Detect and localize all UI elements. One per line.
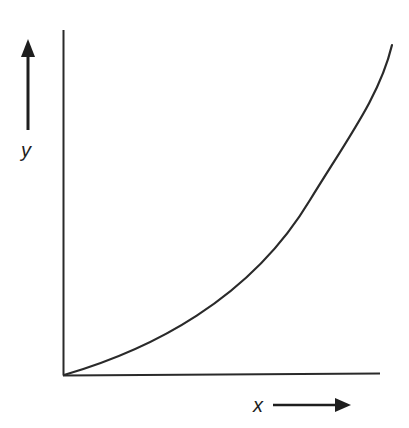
x-direction-arrow-icon	[273, 398, 351, 412]
x-axis	[63, 374, 380, 376]
y-axis-label: y	[19, 139, 32, 161]
y-direction-arrow-icon	[21, 39, 35, 130]
x-axis-label: x	[252, 394, 264, 416]
data-curve	[64, 45, 392, 375]
chart: y x	[0, 0, 409, 428]
